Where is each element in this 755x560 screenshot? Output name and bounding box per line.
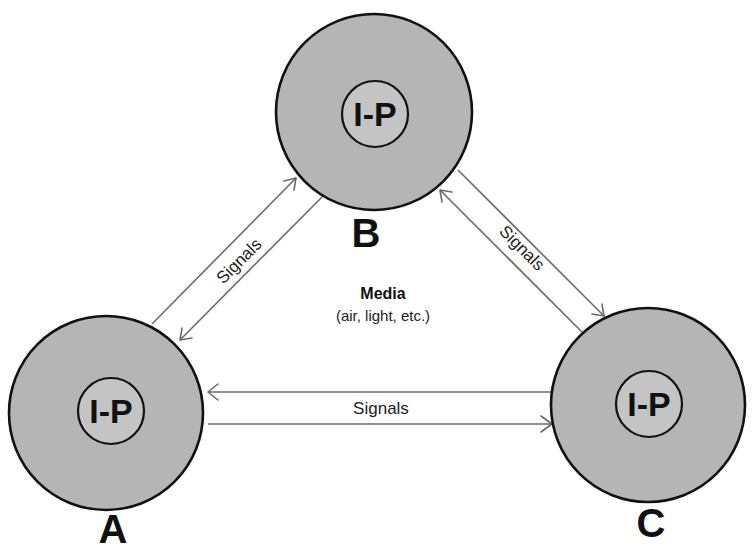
signals-label-b-c: Signals <box>495 222 548 275</box>
node-b-letter: B <box>352 211 381 255</box>
media-title: Media <box>360 285 405 302</box>
link-a-b: Signals <box>152 178 323 340</box>
node-b: I-P B <box>276 14 472 255</box>
node-c-ip-label: I-P <box>627 385 670 423</box>
signals-label-a-c: Signals <box>353 399 409 418</box>
link-a-c: Signals <box>208 384 552 432</box>
media-subtitle: (air, light, etc.) <box>336 307 430 324</box>
signal-arrow-c-to-b <box>440 190 582 332</box>
node-a-ip-label: I-P <box>89 392 132 430</box>
media-label: Media (air, light, etc.) <box>336 285 430 324</box>
signal-arrow-a-to-b <box>152 178 296 324</box>
node-a: I-P A <box>9 316 203 551</box>
node-b-ip-label: I-P <box>353 95 396 133</box>
signal-arrow-b-to-a <box>180 196 323 340</box>
node-c-letter: C <box>637 501 666 545</box>
communication-diagram: Signals Signals Signals I-P B I-P A I-P … <box>0 0 755 560</box>
node-a-letter: A <box>99 507 128 551</box>
node-c: I-P C <box>551 308 745 545</box>
link-b-c: Signals <box>440 170 604 332</box>
